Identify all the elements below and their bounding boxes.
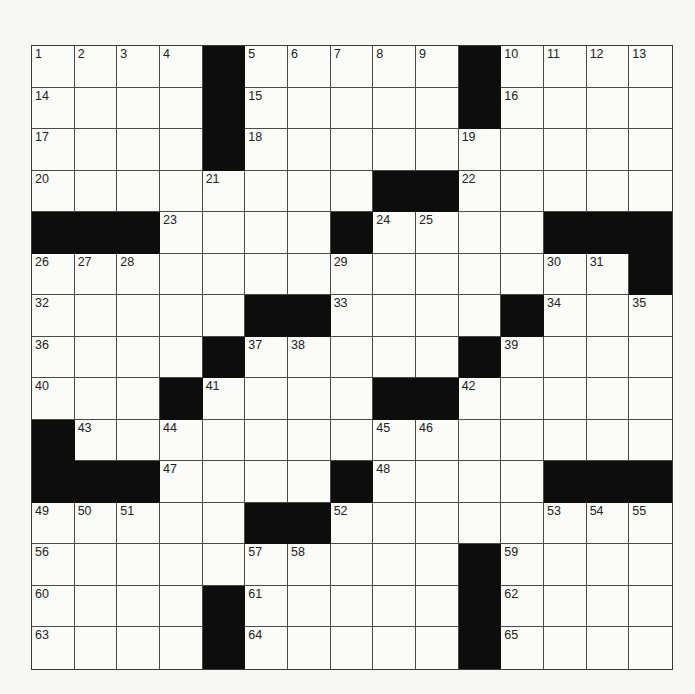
crossword-cell[interactable]: [288, 378, 331, 420]
crossword-cell[interactable]: [288, 88, 331, 130]
crossword-cell[interactable]: [331, 627, 374, 669]
crossword-cell[interactable]: [117, 295, 160, 337]
crossword-cell[interactable]: 33: [331, 295, 374, 337]
crossword-cell[interactable]: [373, 503, 416, 545]
crossword-cell[interactable]: [373, 544, 416, 586]
crossword-cell[interactable]: [75, 88, 118, 130]
crossword-cell[interactable]: [75, 337, 118, 379]
crossword-cell[interactable]: [629, 586, 672, 628]
crossword-cell[interactable]: 41: [203, 378, 246, 420]
crossword-cell[interactable]: 7: [331, 46, 374, 88]
crossword-cell[interactable]: [117, 420, 160, 462]
crossword-cell[interactable]: [331, 171, 374, 213]
crossword-cell[interactable]: [629, 378, 672, 420]
crossword-cell[interactable]: 4: [160, 46, 203, 88]
crossword-cell[interactable]: [331, 129, 374, 171]
crossword-cell[interactable]: [416, 461, 459, 503]
crossword-cell[interactable]: 15: [245, 88, 288, 130]
crossword-cell[interactable]: [416, 254, 459, 296]
crossword-cell[interactable]: [373, 627, 416, 669]
crossword-cell[interactable]: [203, 461, 246, 503]
crossword-cell[interactable]: [629, 88, 672, 130]
crossword-cell[interactable]: [75, 378, 118, 420]
crossword-cell[interactable]: [75, 586, 118, 628]
crossword-cell[interactable]: 48: [373, 461, 416, 503]
crossword-cell[interactable]: [416, 295, 459, 337]
crossword-cell[interactable]: [587, 88, 630, 130]
crossword-cell[interactable]: [416, 586, 459, 628]
crossword-cell[interactable]: 49: [32, 503, 75, 545]
crossword-cell[interactable]: [117, 586, 160, 628]
crossword-cell[interactable]: [203, 503, 246, 545]
crossword-cell[interactable]: [416, 503, 459, 545]
crossword-cell[interactable]: 5: [245, 46, 288, 88]
crossword-cell[interactable]: [288, 461, 331, 503]
crossword-cell[interactable]: 25: [416, 212, 459, 254]
crossword-cell[interactable]: 36: [32, 337, 75, 379]
crossword-cell[interactable]: 17: [32, 129, 75, 171]
crossword-cell[interactable]: [587, 129, 630, 171]
crossword-cell[interactable]: 34: [544, 295, 587, 337]
crossword-cell[interactable]: [629, 337, 672, 379]
crossword-cell[interactable]: [629, 129, 672, 171]
crossword-cell[interactable]: 62: [501, 586, 544, 628]
crossword-cell[interactable]: [587, 586, 630, 628]
crossword-cell[interactable]: 8: [373, 46, 416, 88]
crossword-cell[interactable]: [544, 586, 587, 628]
crossword-cell[interactable]: 42: [459, 378, 502, 420]
crossword-cell[interactable]: 19: [459, 129, 502, 171]
crossword-cell[interactable]: [544, 337, 587, 379]
crossword-cell[interactable]: [544, 420, 587, 462]
crossword-cell[interactable]: [587, 171, 630, 213]
crossword-cell[interactable]: [416, 337, 459, 379]
crossword-cell[interactable]: [245, 461, 288, 503]
crossword-cell[interactable]: 22: [459, 171, 502, 213]
crossword-cell[interactable]: [501, 254, 544, 296]
crossword-cell[interactable]: [288, 627, 331, 669]
crossword-cell[interactable]: [501, 378, 544, 420]
crossword-cell[interactable]: [288, 254, 331, 296]
crossword-cell[interactable]: [416, 544, 459, 586]
crossword-cell[interactable]: [587, 295, 630, 337]
crossword-cell[interactable]: [245, 420, 288, 462]
crossword-cell[interactable]: 24: [373, 212, 416, 254]
crossword-cell[interactable]: 52: [331, 503, 374, 545]
crossword-cell[interactable]: [544, 627, 587, 669]
crossword-cell[interactable]: [203, 212, 246, 254]
crossword-cell[interactable]: [331, 337, 374, 379]
crossword-cell[interactable]: 12: [587, 46, 630, 88]
crossword-cell[interactable]: 1: [32, 46, 75, 88]
crossword-cell[interactable]: [587, 544, 630, 586]
crossword-cell[interactable]: 13: [629, 46, 672, 88]
crossword-cell[interactable]: [160, 503, 203, 545]
crossword-cell[interactable]: 14: [32, 88, 75, 130]
crossword-cell[interactable]: [501, 420, 544, 462]
crossword-cell[interactable]: 57: [245, 544, 288, 586]
crossword-cell[interactable]: [117, 544, 160, 586]
crossword-cell[interactable]: [117, 378, 160, 420]
crossword-cell[interactable]: [373, 586, 416, 628]
crossword-cell[interactable]: [75, 171, 118, 213]
crossword-cell[interactable]: 56: [32, 544, 75, 586]
crossword-cell[interactable]: [203, 295, 246, 337]
crossword-cell[interactable]: [501, 503, 544, 545]
crossword-cell[interactable]: [117, 129, 160, 171]
crossword-cell[interactable]: [501, 171, 544, 213]
crossword-cell[interactable]: [160, 586, 203, 628]
crossword-cell[interactable]: [75, 627, 118, 669]
crossword-cell[interactable]: 46: [416, 420, 459, 462]
crossword-cell[interactable]: [459, 420, 502, 462]
crossword-cell[interactable]: [587, 378, 630, 420]
crossword-cell[interactable]: [160, 295, 203, 337]
crossword-cell[interactable]: 59: [501, 544, 544, 586]
crossword-cell[interactable]: 53: [544, 503, 587, 545]
crossword-cell[interactable]: 38: [288, 337, 331, 379]
crossword-cell[interactable]: 6: [288, 46, 331, 88]
crossword-cell[interactable]: [331, 544, 374, 586]
crossword-cell[interactable]: [75, 295, 118, 337]
crossword-cell[interactable]: [373, 295, 416, 337]
crossword-cell[interactable]: 47: [160, 461, 203, 503]
crossword-cell[interactable]: [501, 129, 544, 171]
crossword-cell[interactable]: [75, 544, 118, 586]
crossword-cell[interactable]: [459, 254, 502, 296]
